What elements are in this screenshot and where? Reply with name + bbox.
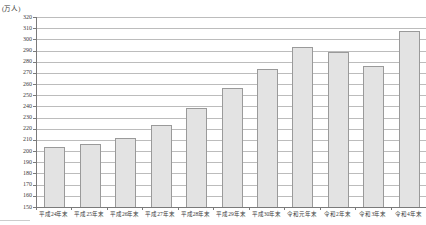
bar [328,52,349,207]
bar [186,108,207,207]
cropped-caption-line-artifact [0,220,30,221]
plot-area [36,17,426,208]
y-tick-label: 210 [10,136,32,143]
y-axis-unit-label: (万人) [2,3,20,13]
x-tick-label: 平成26年末 [107,211,143,218]
y-tick-label: 160 [10,192,32,199]
y-tick [33,185,36,186]
y-tick-label: 280 [10,58,32,65]
y-tick-label: 230 [10,114,32,121]
y-tick [33,106,36,107]
y-tick [33,129,36,130]
y-tick-label: 320 [10,14,32,21]
gridline [37,51,426,52]
x-tick-label: 平成24年末 [36,211,72,218]
y-tick-label: 300 [10,36,32,43]
x-tick-label: 令和4年末 [390,211,426,218]
y-tick-label: 200 [10,148,32,155]
y-tick-label: 260 [10,81,32,88]
y-tick-label: 170 [10,181,32,188]
x-boundary-tick [107,207,108,210]
x-boundary-tick [178,207,179,210]
x-tick-label: 平成30年末 [248,211,284,218]
y-tick-label: 310 [10,25,32,32]
bar [399,31,420,207]
y-tick [33,196,36,197]
y-tick-label: 180 [10,170,32,177]
y-tick-label: 270 [10,69,32,76]
bar [257,69,278,207]
x-boundary-tick [355,207,356,210]
y-tick [33,84,36,85]
x-boundary-tick [71,207,72,210]
gridline [37,39,426,40]
bar [44,147,65,207]
y-tick [33,162,36,163]
x-boundary-tick [320,207,321,210]
y-tick-label: 250 [10,92,32,99]
y-tick-label: 240 [10,103,32,110]
x-boundary-tick [213,207,214,210]
gridline [37,62,426,63]
x-tick-label: 令和3年末 [355,211,391,218]
x-tick-label: 平成29年末 [213,211,249,218]
bar-chart: (万人) 15016017018019020021022023024025026… [0,0,426,225]
y-tick [33,28,36,29]
gridline [37,28,426,29]
bar [115,138,136,207]
x-boundary-tick [249,207,250,210]
x-tick-label: 平成27年末 [142,211,178,218]
y-tick [33,62,36,63]
x-boundary-tick [284,207,285,210]
x-boundary-tick [142,207,143,210]
bar [292,47,313,207]
x-boundary-tick [36,207,37,210]
x-tick-label: 平成28年末 [178,211,214,218]
bar [80,144,101,207]
y-tick-label: 190 [10,159,32,166]
y-tick-label: 150 [10,204,32,211]
x-boundary-tick [391,207,392,210]
bar [151,125,172,207]
y-tick [33,173,36,174]
x-tick-label: 平成25年末 [71,211,107,218]
bar [222,88,243,207]
y-tick-label: 220 [10,125,32,132]
bar [363,66,384,207]
y-tick [33,95,36,96]
y-tick-label: 290 [10,47,32,54]
x-tick-label: 令和2年末 [319,211,355,218]
y-tick [33,151,36,152]
y-tick [33,73,36,74]
y-tick [33,17,36,18]
y-tick [33,140,36,141]
y-tick [33,39,36,40]
x-tick-label: 令和元年末 [284,211,320,218]
gridline [37,17,426,18]
y-tick [33,51,36,52]
y-tick [33,118,36,119]
